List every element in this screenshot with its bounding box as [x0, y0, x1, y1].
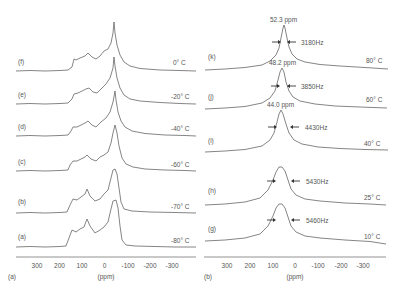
trace-label-a: (a)	[18, 233, 26, 241]
left-panel: (f) (e) (d) (c) (b) (a) 0° C -20° C -40°…	[8, 22, 196, 281]
tick-left-300: 300	[32, 262, 43, 269]
tick-right-300: 300	[222, 262, 233, 269]
linewidth-label-h: 5430Hz	[306, 178, 328, 185]
trace-label-f: (f)	[18, 58, 24, 66]
panel-label-a: (a)	[8, 273, 16, 281]
ppm-label-j: 48.2 ppm	[269, 59, 296, 67]
temp-label-j: 60° C	[366, 96, 383, 103]
tick-left-100: 100	[77, 262, 88, 269]
trace-g	[205, 204, 386, 244]
trace-label-b: (b)	[18, 198, 26, 206]
temp-label-b: -70° C	[171, 203, 190, 210]
ppm-label-i: 44.0 ppm	[267, 101, 294, 109]
tick-left-m200: -200	[143, 262, 156, 269]
temp-label-i: 40° C	[364, 140, 381, 147]
trace-d	[16, 91, 196, 136]
temp-label-h: 25° C	[364, 194, 381, 201]
trace-label-c: (c)	[18, 158, 26, 166]
tick-right-m200: -200	[334, 262, 347, 269]
right-panel: 52.3 ppm 48.2 ppm 44.0 ppm 3180Hz 3850Hz…	[204, 16, 388, 281]
trace-b	[16, 169, 196, 213]
temp-label-c: -60° C	[171, 161, 190, 168]
linewidth-label-i: 4430Hz	[305, 124, 327, 131]
tick-right-m300: -300	[356, 262, 369, 269]
trace-label-e: (e)	[18, 91, 26, 99]
xlabel-right: (ppm)	[287, 273, 304, 281]
trace-label-d: (d)	[18, 123, 26, 131]
temp-label-g: 10° C	[364, 233, 381, 240]
xlabel-left: (ppm)	[98, 273, 115, 281]
trace-label-k: (k)	[208, 53, 216, 61]
trace-k	[205, 25, 388, 70]
temp-label-d: -40° C	[171, 125, 190, 132]
trace-label-j: (j)	[208, 93, 214, 101]
nmr-figure: (f) (e) (d) (c) (b) (a) 0° C -20° C -40°…	[0, 0, 404, 289]
trace-label-i: (i)	[208, 137, 214, 145]
tick-left-m100: -100	[121, 262, 134, 269]
trace-i	[205, 110, 388, 152]
trace-h	[205, 167, 386, 205]
ppm-label-k: 52.3 ppm	[270, 16, 297, 24]
trace-e	[16, 57, 196, 104]
linewidth-label-k: 3180Hz	[301, 39, 323, 46]
trace-label-h: (h)	[208, 187, 216, 195]
tick-right-0: 0	[293, 262, 297, 269]
tick-left-0: 0	[103, 262, 107, 269]
linewidth-label-j: 3850Hz	[301, 83, 323, 90]
trace-f	[16, 22, 196, 71]
trace-a	[16, 200, 196, 247]
linewidth-arrows-i	[268, 125, 299, 129]
temp-label-a: -80° C	[171, 237, 190, 244]
temp-label-e: -20° C	[171, 93, 190, 100]
trace-label-g: (g)	[208, 225, 216, 233]
trace-c	[16, 125, 196, 171]
linewidth-arrows-j	[271, 84, 296, 88]
trace-j	[205, 68, 387, 109]
panel-label-b: (b)	[204, 273, 212, 281]
tick-right-100: 100	[268, 262, 279, 269]
tick-left-m300: -300	[165, 262, 178, 269]
tick-left-200: 200	[54, 262, 65, 269]
linewidth-arrows-k	[272, 40, 296, 44]
tick-right-200: 200	[245, 262, 256, 269]
temp-label-f: 0° C	[173, 59, 186, 66]
linewidth-label-g: 5460Hz	[306, 217, 328, 224]
temp-label-k: 80° C	[366, 57, 383, 64]
tick-right-m100: -100	[311, 262, 324, 269]
